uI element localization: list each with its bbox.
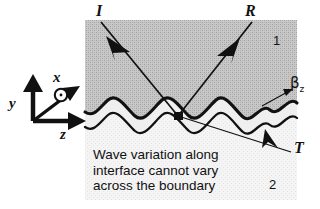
beta-subscript: z <box>300 84 305 94</box>
caption-line-1: Wave variation along <box>93 147 219 163</box>
z-axis-label: z <box>60 127 66 142</box>
y-axis-label: y <box>9 96 16 111</box>
region-2-label: 2 <box>269 178 276 191</box>
caption-line-3: across the boundary <box>93 178 219 194</box>
beta-z-label: βz <box>290 76 304 94</box>
incident-ray-label: I <box>96 3 102 19</box>
x-axis-label: x <box>53 70 61 85</box>
figure-caption: Wave variation along interface cannot va… <box>93 147 219 194</box>
reflected-ray-label: R <box>245 3 256 19</box>
beta-symbol: β <box>290 74 300 92</box>
caption-line-2: interface cannot vary <box>93 163 219 179</box>
transmitted-ray-label: T <box>294 140 304 156</box>
figure-canvas: I R T y x z 1 2 βz Wave variation along … <box>0 0 320 209</box>
region-1-label: 1 <box>273 34 280 47</box>
